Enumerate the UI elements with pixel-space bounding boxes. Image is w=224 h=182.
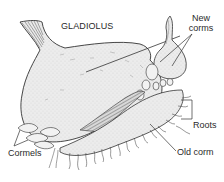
new-corms-label: New corms — [186, 13, 216, 33]
new-corms-label-line2: corms — [186, 23, 216, 33]
roots-label: Roots — [193, 120, 217, 130]
old-corm-label: Old corm — [177, 147, 214, 157]
diagram-title: GLADIOLUS — [61, 21, 113, 31]
gladiolus-diagram: GLADIOLUS New corms Roots Old corm Corme… — [0, 0, 224, 182]
old-corm-leader — [150, 124, 176, 151]
cormels-label: Cormels — [8, 148, 42, 158]
new-corms-label-line1: New — [186, 13, 216, 23]
new-corm-top — [154, 16, 186, 79]
